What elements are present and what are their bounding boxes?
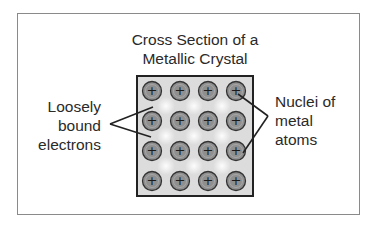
electron-glow (213, 157, 231, 175)
metal-nucleus: + (227, 142, 246, 161)
plus-charge-icon: + (203, 173, 214, 188)
metal-nucleus: + (143, 142, 162, 161)
metal-nucleus: + (199, 142, 218, 161)
metal-nucleus: + (227, 112, 246, 131)
metallic-crystal-diagram: ++++++++++++++++ (0, 0, 378, 226)
plus-charge-icon: + (147, 83, 158, 98)
metal-nucleus: + (227, 172, 246, 191)
electron-glow (213, 97, 231, 115)
plus-charge-icon: + (147, 143, 158, 158)
electron-sea (157, 97, 231, 175)
plus-charge-icon: + (203, 143, 214, 158)
electron-glow (213, 127, 231, 145)
metal-nucleus: + (171, 82, 190, 101)
plus-charge-icon: + (231, 143, 242, 158)
plus-charge-icon: + (175, 83, 186, 98)
electron-glow (185, 97, 203, 115)
electron-glow (185, 127, 203, 145)
electron-glow (157, 157, 175, 175)
plus-charge-icon: + (147, 113, 158, 128)
metal-nucleus: + (199, 112, 218, 131)
metal-nucleus: + (171, 172, 190, 191)
metal-nucleus: + (171, 112, 190, 131)
plus-charge-icon: + (231, 113, 242, 128)
plus-charge-icon: + (203, 113, 214, 128)
metal-nucleus: + (199, 172, 218, 191)
metal-nucleus: + (143, 82, 162, 101)
plus-charge-icon: + (231, 173, 242, 188)
electron-glow (157, 127, 175, 145)
plus-charge-icon: + (175, 143, 186, 158)
electron-glow (185, 157, 203, 175)
electron-glow (157, 97, 175, 115)
metal-nucleus: + (143, 172, 162, 191)
plus-charge-icon: + (147, 173, 158, 188)
metal-nucleus: + (171, 142, 190, 161)
plus-charge-icon: + (175, 113, 186, 128)
metal-nucleus: + (199, 82, 218, 101)
metal-nucleus: + (143, 112, 162, 131)
plus-charge-icon: + (175, 173, 186, 188)
plus-charge-icon: + (203, 83, 214, 98)
